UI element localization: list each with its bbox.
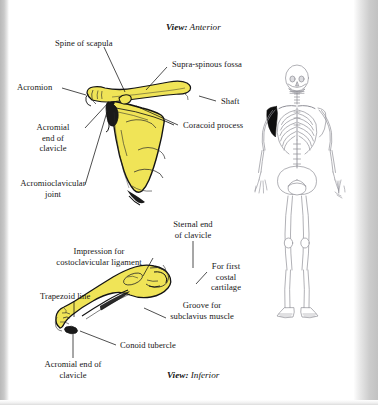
leader-acromion — [62, 88, 86, 95]
conoid-tubercle-shape — [65, 326, 78, 334]
view-caption-inferior-prefix: View: — [167, 370, 188, 380]
view-caption-anterior-prefix: View: — [166, 22, 187, 32]
label-groove-for-subclavius-muscle: Groove for subclavius muscle — [160, 300, 244, 321]
anatomy-plate-page: View: Anterior Spine of scapula Supra-sp… — [0, 0, 378, 405]
label-coracoid-process: Coracoid process — [183, 120, 243, 131]
label-acromion: Acromion — [17, 82, 52, 93]
label-sternal-end-of-clavicle: Sternal end of clavicle — [162, 219, 224, 240]
label-spine-of-scapula: Spine of scapula — [55, 38, 113, 49]
leader-acromial-end-clavicle — [85, 102, 109, 128]
view-caption-anterior-value: Anterior — [190, 22, 221, 32]
view-caption-inferior-value: Inferior — [191, 370, 220, 380]
view-caption-anterior: View: Anterior — [166, 22, 221, 32]
label-acromial-end-of-clavicle: Acromial end of clavicle — [22, 122, 84, 154]
leader-acromioclavicular-joint — [85, 112, 107, 185]
view-caption-inferior: View: Inferior — [167, 370, 219, 380]
leader-spine-of-scapula — [104, 47, 125, 92]
label-acromioclavicular-joint: Acromioclavicular joint — [12, 178, 94, 199]
label-for-first-costal-cartilage: For first costal cartilage — [204, 261, 248, 293]
label-supra-spinous-fossa: Supra-spinous fossa — [172, 59, 242, 70]
skeleton-reference-figure — [255, 65, 345, 318]
label-trapezoid-line: Trapezoid line — [40, 291, 90, 302]
leader-conoid-tubercle — [80, 331, 116, 345]
label-acromial-end-of-clavicle-inferior: Acromial end of clavicle — [32, 359, 114, 380]
label-impression-for-costoclavicular-ligament: Impression for costoclavicular ligament — [43, 246, 155, 267]
scapula-anterior-figure — [86, 81, 191, 205]
label-conoid-tubercle: Conoid tubercle — [120, 340, 176, 351]
label-shaft: Shaft — [221, 96, 239, 107]
leader-shaft — [199, 96, 216, 101]
clavicle-bone-anterior — [87, 81, 191, 102]
coracoid-process-shape — [119, 95, 131, 104]
